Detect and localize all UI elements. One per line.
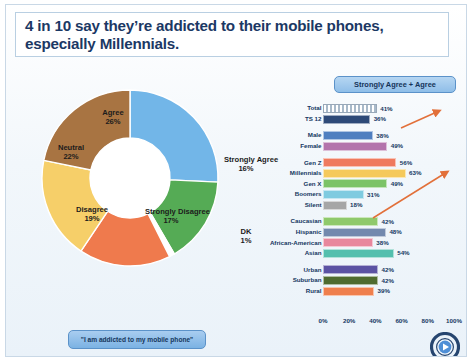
- bar-track: 42%: [323, 217, 454, 226]
- bar-row: Caucasian42%: [261, 217, 466, 226]
- bar-value-label: 42%: [382, 266, 394, 273]
- bar-row-label: Female: [242, 142, 322, 149]
- x-axis-tick: 0%: [319, 317, 328, 324]
- bar-track: 54%: [323, 249, 454, 258]
- bar-row-label: Gen Z: [242, 159, 322, 166]
- bar-fill: [323, 115, 370, 124]
- bar-track: 63%: [323, 169, 454, 178]
- bar-row-label: Boomers: [242, 190, 322, 197]
- bar-track: 49%: [323, 142, 454, 151]
- bar-row-label: Total: [242, 104, 322, 111]
- bar-row: Rural39%: [261, 287, 466, 296]
- bar-row-label: Suburban: [242, 276, 322, 283]
- bar-row-label: Urban: [242, 266, 322, 273]
- bar-track: 41%: [323, 104, 454, 113]
- bar-fill: [323, 287, 374, 296]
- bar-row: Urban42%: [261, 265, 466, 274]
- circular-play-button-logo-icon: [430, 332, 460, 357]
- bar-value-label: 49%: [391, 180, 403, 187]
- bar-row-label: African-American: [242, 239, 322, 246]
- bar-row: Gen Z56%: [261, 158, 466, 167]
- bar-row: Female49%: [261, 142, 466, 151]
- bar-row: Silent18%: [261, 201, 466, 210]
- bar-row: African-American38%: [261, 238, 466, 247]
- bar-fill: [323, 190, 364, 199]
- bar-track: 56%: [323, 158, 454, 167]
- bar-track: 18%: [323, 201, 454, 210]
- bar-value-label: 36%: [374, 115, 386, 122]
- bar-row-label: Gen X: [242, 180, 322, 187]
- x-axis-tick: 80%: [422, 317, 434, 324]
- bar-fill: [323, 249, 394, 258]
- bar-row: Total41%: [261, 104, 466, 113]
- bar-row-label: Asian: [242, 249, 322, 256]
- x-axis-tick: 20%: [343, 317, 355, 324]
- bar-row: Millennials63%: [261, 169, 466, 178]
- bar-fill: [323, 158, 396, 167]
- page-title: 4 in 10 say they’re addicted to their mo…: [25, 17, 445, 53]
- bar-value-label: 41%: [380, 105, 392, 112]
- bar-row-label: Hispanic: [242, 228, 322, 235]
- bar-fill: [323, 276, 378, 285]
- bar-value-label: 42%: [382, 277, 394, 284]
- bar-track: 49%: [323, 179, 454, 188]
- x-axis: 0%20%40%60%80%100%: [323, 317, 457, 329]
- bar-fill: [323, 169, 406, 178]
- bar-row: Male38%: [261, 131, 466, 140]
- bar-value-label: 48%: [389, 228, 401, 235]
- bar-fill: [323, 201, 347, 210]
- quote-caption-pill: "I am addicted to my mobile phone": [68, 330, 206, 349]
- bar-track: 42%: [323, 265, 454, 274]
- bar-row-label: Millennials: [242, 169, 322, 176]
- bar-fill: [323, 238, 373, 247]
- bar-value-label: 49%: [391, 142, 403, 149]
- bar-row-label: Male: [242, 131, 322, 138]
- bar-fill: [323, 179, 387, 188]
- bar-value-label: 39%: [378, 287, 390, 294]
- bar-row: Gen X49%: [261, 179, 466, 188]
- bar-row: TS 1236%: [261, 115, 466, 124]
- bar-value-label: 56%: [400, 159, 412, 166]
- bar-row-label: Caucasian: [242, 217, 322, 224]
- bar-value-label: 42%: [382, 218, 394, 225]
- bar-track: 39%: [323, 287, 454, 296]
- bar-value-label: 54%: [397, 249, 409, 256]
- donut-label-strongly-disagree: Strongly Disagree17%: [145, 207, 197, 226]
- bar-value-label: 38%: [376, 132, 388, 139]
- bar-value-label: 38%: [376, 239, 388, 246]
- donut-label-agree: Agree26%: [90, 108, 136, 127]
- bar-track: 48%: [323, 228, 454, 237]
- bar-track: 36%: [323, 115, 454, 124]
- bar-value-label: 31%: [367, 191, 379, 198]
- bar-fill: [323, 265, 378, 274]
- bar-track: 42%: [323, 276, 454, 285]
- bar-row: Suburban42%: [261, 276, 466, 285]
- legend-pill-strongly-agree-plus-agree: Strongly Agree + Agree: [334, 76, 456, 93]
- donut-label-disagree: Disagree19%: [68, 205, 116, 224]
- bar-fill: [323, 142, 387, 151]
- bar-row-label: TS 12: [242, 115, 322, 122]
- x-axis-tick: 60%: [395, 317, 407, 324]
- bar-track: 38%: [323, 131, 454, 140]
- bar-fill: [323, 217, 378, 226]
- bar-fill: [323, 228, 386, 237]
- bar-fill: [323, 104, 377, 113]
- bar-track: 38%: [323, 238, 454, 247]
- bar-row: Hispanic48%: [261, 228, 466, 237]
- bar-row-label: Silent: [242, 201, 322, 208]
- bar-row: Boomers31%: [261, 190, 466, 199]
- bar-value-label: 18%: [350, 201, 362, 208]
- slide-canvas: 4 in 10 say they’re addicted to their mo…: [5, 4, 467, 357]
- title-box: 4 in 10 say they’re addicted to their mo…: [15, 12, 449, 57]
- bar-row-label: Rural: [242, 287, 322, 294]
- bar-track: 31%: [323, 190, 454, 199]
- x-axis-tick: 100%: [446, 317, 462, 324]
- donut-label-neutral: Neutral22%: [48, 143, 94, 162]
- bar-fill: [323, 131, 373, 140]
- x-axis-tick: 40%: [369, 317, 381, 324]
- bar-chart: Total41%TS 1236%Male38%Female49%Gen Z56%…: [261, 104, 466, 319]
- bar-value-label: 63%: [409, 169, 421, 176]
- bar-row: Asian54%: [261, 249, 466, 258]
